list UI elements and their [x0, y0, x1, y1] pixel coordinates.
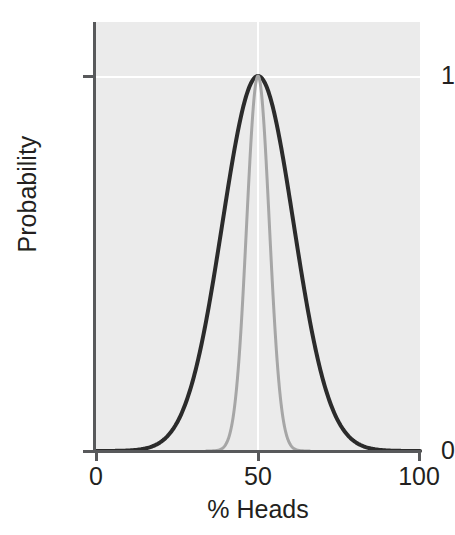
curve-narrow-distribution	[206, 76, 310, 451]
curves-svg	[96, 22, 420, 451]
y-tick-mark-0	[83, 450, 94, 453]
x-axis-title: % Heads	[96, 495, 420, 523]
x-tick-label-100: 100	[374, 462, 455, 490]
x-tick-label-0: 0	[51, 462, 141, 490]
x-tick-mark-100	[418, 450, 421, 461]
probability-chart-figure: 1 0 0 50 100 % Heads Probability	[0, 0, 455, 535]
x-tick-label-50: 50	[213, 462, 303, 490]
y-axis-title: Probability	[13, 104, 41, 284]
curve-wide-distribution	[96, 76, 420, 451]
x-tick-mark-0	[95, 450, 98, 461]
x-tick-mark-50	[257, 450, 260, 461]
plot-panel	[96, 22, 420, 451]
y-tick-mark-1	[83, 75, 94, 78]
y-axis-line	[93, 22, 96, 452]
y-tick-label-1: 1	[381, 63, 455, 88]
